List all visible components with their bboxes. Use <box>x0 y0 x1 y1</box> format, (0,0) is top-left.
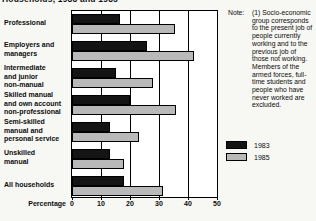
bar-1985-row2 <box>72 78 153 88</box>
legend-swatch-1985 <box>226 153 247 161</box>
gridline-30 <box>159 11 160 197</box>
legend-label-1983: 1983 <box>254 142 270 149</box>
bar-1983-row5 <box>72 149 110 159</box>
category-label-5: Unskilledmanual <box>4 149 70 166</box>
bar-1985-row1 <box>72 51 194 61</box>
bar-1985-row3 <box>72 105 176 115</box>
note-line-9: time students and <box>252 78 316 86</box>
x-tick-label-40: 40 <box>178 200 198 207</box>
legend-label-1985: 1985 <box>254 154 270 161</box>
legend-item-1983: 1983 <box>226 139 270 151</box>
note-line-10: people who have <box>252 86 316 94</box>
category-label-6: All households <box>4 181 70 190</box>
note-line-6: those not working. <box>252 55 316 63</box>
bar-1983-row4 <box>72 122 110 132</box>
note-line-4: working and to the <box>252 40 316 48</box>
note-line-12: excluded. <box>252 101 316 109</box>
gridline-40 <box>188 11 189 197</box>
category-label-1: Employers andmanagers <box>4 41 70 58</box>
bar-1985-row6 <box>72 186 163 196</box>
note-line-3: people currently <box>252 32 316 40</box>
legend: 19831985 <box>226 139 270 163</box>
bar-1985-row4 <box>72 132 139 142</box>
note-line-11: never worked are <box>252 94 316 102</box>
x-tick-label-10: 10 <box>91 200 111 207</box>
note-label: Note: <box>228 9 244 16</box>
figure: Households, 1983 and 1985 ProfessionalEm… <box>0 0 316 221</box>
note-line-2: to the present job of <box>252 24 316 32</box>
legend-swatch-1983 <box>226 141 247 149</box>
note-text: (1) Socio-economicgroup correspondsto th… <box>252 9 316 109</box>
category-label-3: Skilled manualand own accountnon-profess… <box>4 91 70 117</box>
note-line-8: armed forces, full- <box>252 71 316 79</box>
plot-area <box>71 10 218 198</box>
category-label-2: Intermediateand juniornon-manual <box>4 64 70 90</box>
x-tick-label-30: 30 <box>149 200 169 207</box>
bar-1983-row0 <box>72 14 120 24</box>
legend-item-1985: 1985 <box>226 151 270 163</box>
category-label-0: Professional <box>4 19 70 28</box>
bar-1983-row3 <box>72 95 130 105</box>
figure-title-clipped: Households, 1983 and 1985 <box>2 0 172 4</box>
bar-1983-row2 <box>72 68 116 78</box>
figure-title-text: Households, 1983 and 1985 <box>2 0 118 4</box>
gridline-20 <box>130 11 131 197</box>
note-line-7: Members of the <box>252 63 316 71</box>
category-label-4: Semi-skilledmanual andpersonal service <box>4 118 70 144</box>
bar-1985-row0 <box>72 24 175 34</box>
x-axis-label: Percentage <box>8 200 66 207</box>
x-tick-label-20: 20 <box>120 200 140 207</box>
x-tick-label-50: 50 <box>207 200 227 207</box>
note-line-5: previous job of <box>252 48 316 56</box>
note-line-1: group corresponds <box>252 17 316 25</box>
note-line-0: (1) Socio-economic <box>252 9 316 17</box>
bar-1983-row6 <box>72 176 124 186</box>
x-tick-label-0: 0 <box>62 200 82 207</box>
bar-1983-row1 <box>72 41 147 51</box>
bar-1985-row5 <box>72 159 124 169</box>
